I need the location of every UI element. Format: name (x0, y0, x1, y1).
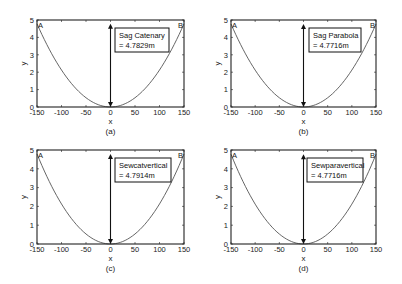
point-label-a: A (38, 21, 43, 30)
x-tick-label: -50 (274, 245, 285, 254)
x-tick-label: -100 (248, 108, 263, 117)
arrow-down-icon (301, 239, 306, 244)
y-tick-label: 5 (224, 16, 228, 25)
panel-label: (b) (299, 127, 309, 136)
point-label-b: B (178, 21, 183, 30)
panel-label: (a) (106, 127, 116, 136)
y-axis-label: y (213, 62, 222, 66)
point-label-b: B (178, 151, 183, 160)
annotation-value: = 4.7914m (119, 171, 155, 180)
x-tick-label: 50 (323, 245, 331, 254)
x-tick-label: 50 (131, 245, 139, 254)
chart-canvas: -150-100-50050100150012345xy(a)ABSag Cat… (0, 0, 402, 284)
y-tick-label: 4 (30, 165, 34, 174)
subplot-b: -150-100-50050100150012345xy(b)ABSag Par… (213, 16, 382, 136)
y-tick-label: 1 (30, 85, 34, 94)
x-tick-label: 50 (323, 108, 331, 117)
annotation-title: Sewcatvertical (119, 161, 168, 170)
x-tick-label: 150 (178, 245, 191, 254)
x-tick-label: 0 (301, 245, 305, 254)
y-tick-label: 0 (224, 103, 228, 112)
y-tick-label: 1 (224, 221, 228, 230)
x-tick-label: -50 (274, 108, 285, 117)
y-tick-label: 3 (224, 51, 228, 60)
arrow-up-icon (301, 24, 306, 29)
y-tick-label: 2 (224, 202, 228, 211)
x-tick-label: 0 (108, 245, 112, 254)
y-tick-label: 4 (224, 165, 228, 174)
subplot-c: -150-100-50050100150012345xy(c)ABSewcatv… (19, 146, 190, 273)
annotation-title: Sag Catenary (119, 31, 165, 40)
annotation-title: Sewparavertical (311, 161, 365, 170)
x-tick-label: -50 (81, 108, 92, 117)
x-axis-label: x (302, 117, 306, 126)
y-tick-label: 4 (30, 33, 34, 42)
x-tick-label: 150 (370, 108, 383, 117)
y-tick-label: 2 (224, 68, 228, 77)
point-label-b: B (370, 151, 375, 160)
x-tick-label: 100 (346, 108, 359, 117)
panel-label: (c) (106, 264, 116, 273)
x-tick-label: 0 (301, 108, 305, 117)
annotation-value: = 4.7716m (311, 171, 347, 180)
arrow-down-icon (301, 102, 306, 107)
y-tick-label: 2 (30, 68, 34, 77)
arrow-down-icon (108, 102, 113, 107)
annotation-value: = 4.7829m (119, 41, 155, 50)
y-axis-label: y (19, 195, 28, 199)
y-tick-label: 2 (30, 202, 34, 211)
y-tick-label: 3 (30, 51, 34, 60)
y-tick-label: 3 (30, 183, 34, 192)
point-label-a: A (232, 151, 237, 160)
annotation-value: = 4.7716m (313, 41, 349, 50)
y-axis-label: y (213, 195, 222, 199)
y-axis-label: y (19, 62, 28, 66)
arrow-up-icon (108, 154, 113, 159)
y-tick-label: 1 (224, 85, 228, 94)
y-tick-label: 3 (224, 183, 228, 192)
y-tick-label: 0 (30, 103, 34, 112)
annotation-title: Sag Parabola (313, 31, 359, 40)
y-tick-label: 4 (224, 33, 228, 42)
x-tick-label: 100 (346, 245, 359, 254)
y-tick-label: 0 (30, 240, 34, 249)
subplot-d: -150-100-50050100150012345xy(d)ABSewpara… (213, 146, 382, 273)
x-tick-label: -100 (54, 245, 69, 254)
x-tick-label: 100 (153, 108, 166, 117)
x-tick-label: 150 (370, 245, 383, 254)
x-axis-label: x (109, 117, 113, 126)
x-axis-label: x (302, 254, 306, 263)
subplot-a: -150-100-50050100150012345xy(a)ABSag Cat… (19, 16, 190, 136)
point-label-a: A (38, 151, 43, 160)
point-label-a: A (232, 21, 237, 30)
y-tick-label: 5 (224, 146, 228, 155)
arrow-up-icon (108, 24, 113, 29)
x-tick-label: -100 (54, 108, 69, 117)
x-tick-label: 150 (178, 108, 191, 117)
panel-label: (d) (299, 264, 309, 273)
x-axis-label: x (109, 254, 113, 263)
y-tick-label: 5 (30, 146, 34, 155)
x-tick-label: 0 (108, 108, 112, 117)
x-tick-label: -50 (81, 245, 92, 254)
arrow-down-icon (108, 239, 113, 244)
x-tick-label: -100 (248, 245, 263, 254)
arrow-up-icon (301, 154, 306, 159)
x-tick-label: 100 (153, 245, 166, 254)
point-label-b: B (370, 21, 375, 30)
y-tick-label: 5 (30, 16, 34, 25)
y-tick-label: 0 (224, 240, 228, 249)
x-tick-label: 50 (131, 108, 139, 117)
y-tick-label: 1 (30, 221, 34, 230)
